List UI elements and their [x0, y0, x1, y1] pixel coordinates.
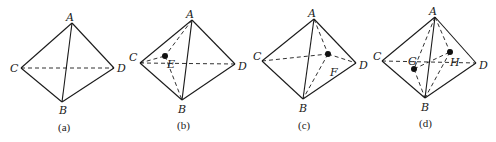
vertex-label-b: B — [298, 102, 307, 115]
point-label-e: E — [166, 58, 175, 71]
segment-f-b — [303, 54, 328, 99]
vertex-label-b: B — [420, 101, 429, 114]
vertex-label-c: C — [373, 50, 382, 63]
panel-c: A C D B F (c) — [253, 7, 368, 132]
segment-a-h — [435, 17, 450, 52]
edge-ac — [21, 23, 72, 68]
panel-a: A C D B (a) — [10, 11, 126, 134]
vertex-label-a: A — [428, 5, 437, 18]
edge-db — [182, 64, 235, 100]
point-label-h: H — [449, 56, 460, 69]
panel-caption-b: (b) — [177, 119, 190, 132]
panel-b: A C D B E (b) — [129, 8, 247, 132]
edge-cb — [140, 63, 182, 100]
vertex-label-a: A — [65, 11, 74, 24]
edge-cd-hidden — [140, 63, 235, 64]
point-f-marker — [325, 51, 331, 57]
vertex-label-d: D — [478, 59, 488, 72]
edge-cb — [262, 61, 303, 99]
panel-caption-c: (c) — [298, 119, 311, 132]
vertex-label-d: D — [116, 62, 126, 75]
vertex-label-c: C — [253, 50, 262, 63]
edge-ad — [72, 23, 114, 68]
edge-ab — [425, 17, 435, 98]
segment-g-h — [414, 52, 450, 69]
vertex-label-d: D — [358, 59, 368, 72]
panel-caption-d: (d) — [419, 117, 432, 130]
edge-ac — [262, 19, 314, 61]
vertex-label-a: A — [185, 8, 194, 21]
vertex-label-d: D — [237, 60, 247, 73]
edge-cb — [382, 61, 425, 98]
vertex-label-b: B — [58, 104, 67, 117]
edge-ad — [192, 20, 235, 64]
edge-cb — [21, 68, 62, 102]
point-h-marker — [447, 49, 453, 55]
segment-h-b — [425, 52, 450, 98]
segment-c-f — [262, 54, 328, 61]
point-label-f: F — [329, 66, 338, 79]
vertex-label-c: C — [129, 51, 138, 64]
vertex-label-b: B — [177, 103, 186, 116]
panel-caption-a: (a) — [58, 121, 71, 134]
edge-ab — [303, 19, 314, 99]
point-label-g: G — [408, 55, 417, 68]
vertex-label-c: C — [10, 62, 19, 75]
tetrahedron-figure: A C D B (a) A C D B E (b) A C — [0, 0, 496, 142]
segment-a-f — [314, 19, 328, 54]
edge-db — [62, 68, 114, 102]
panel-d: A C D B G H (d) — [373, 5, 488, 130]
vertex-label-a: A — [307, 7, 316, 20]
edge-ab — [62, 23, 72, 102]
